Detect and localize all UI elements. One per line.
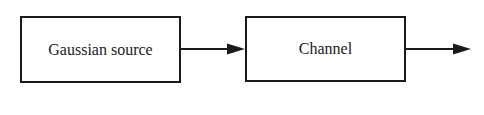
arrowhead-icon [453,44,471,55]
gaussian-source-block: Gaussian source [20,16,181,83]
arrow-source-to-channel [181,44,245,55]
channel-label: Channel [299,40,352,58]
arrowhead-icon [227,44,245,55]
gaussian-source-label: Gaussian source [48,41,152,59]
arrow-channel-output [406,44,471,55]
channel-block: Channel [245,16,406,82]
